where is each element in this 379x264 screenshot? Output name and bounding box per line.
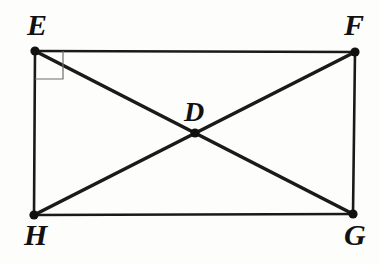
geometry-canvas [0, 0, 379, 264]
geometry-figure: E F D H G [0, 0, 379, 264]
vertex-label-g: G [344, 220, 366, 250]
vertex-dot-d [190, 128, 199, 137]
vertex-label-e: E [27, 10, 47, 40]
vertex-label-h: H [24, 220, 47, 250]
segment-ef [35, 51, 355, 52]
segment-fg [353, 52, 355, 214]
vertex-dot-f [350, 47, 359, 56]
segment-he [34, 51, 35, 215]
vertex-label-d: D [184, 97, 204, 127]
vertex-dot-e [30, 46, 39, 55]
vertex-label-f: F [344, 10, 364, 40]
segment-gh [34, 214, 353, 215]
